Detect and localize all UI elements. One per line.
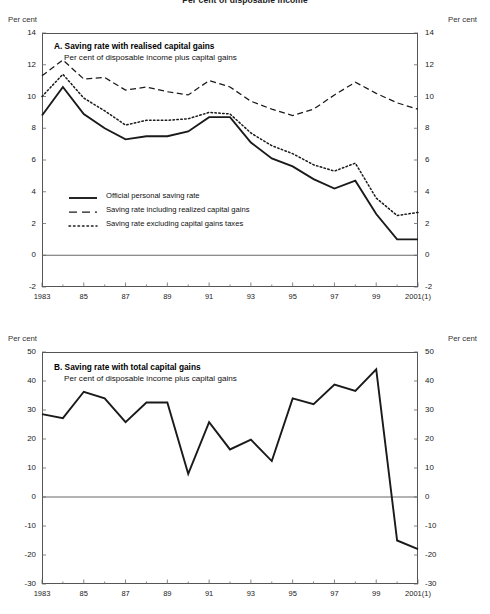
- y-tick-label-a-right: 10: [425, 92, 461, 101]
- y-tick-label-b-left: -30: [8, 579, 36, 588]
- y-tick-label-a-right: 2: [425, 219, 461, 228]
- y-tick-label-b-left: 10: [8, 463, 36, 472]
- y-tick-label-a-left: 2: [8, 219, 36, 228]
- legend-label: Saving rate excluding capital gains taxe…: [106, 219, 243, 228]
- y-tick-label-a-right: 0: [425, 250, 461, 259]
- y-tick-label-a-right: -2: [425, 282, 461, 291]
- per-cent-label-a-left: Per cent: [8, 15, 37, 24]
- legend-label: Official personal saving rate: [106, 191, 200, 200]
- y-tick-label-b-right: -10: [425, 521, 461, 530]
- y-tick-label-b-right: 30: [425, 405, 461, 414]
- y-tick-label-b-right: 20: [425, 434, 461, 443]
- y-tick-label-b-right: 10: [425, 463, 461, 472]
- y-tick-label-a-left: -2: [8, 282, 36, 291]
- y-tick-label-b-right: -20: [425, 550, 461, 559]
- panel-b-title: B. Saving rate with total capital gains: [54, 362, 201, 372]
- plot-frame-b: [42, 352, 418, 584]
- y-tick-label-b-right: 50: [425, 347, 461, 356]
- x-tick-label-a: 2001(1): [391, 292, 445, 301]
- y-tick-label-b-right: 40: [425, 376, 461, 385]
- panel-a-title: A. Saving rate with realised capital gai…: [54, 41, 214, 51]
- per-cent-label-b-right: Per cent: [448, 334, 477, 343]
- y-tick-label-a-left: 10: [8, 92, 36, 101]
- y-tick-label-b-right: -30: [425, 579, 461, 588]
- legend-swatch-dashed: [68, 206, 98, 218]
- y-tick-label-b-left: 0: [8, 492, 36, 501]
- figure-suptitle: Per cent of disposable income: [0, 0, 490, 5]
- y-tick-label-b-left: 20: [8, 434, 36, 443]
- y-tick-label-b-right: 0: [425, 492, 461, 501]
- y-tick-label-a-right: 6: [425, 155, 461, 164]
- y-tick-label-a-left: 4: [8, 187, 36, 196]
- legend-swatch-dotted: [68, 220, 98, 232]
- y-tick-label-b-left: 50: [8, 347, 36, 356]
- legend-label: Saving rate including realized capital g…: [106, 205, 250, 214]
- y-tick-label-b-left: 40: [8, 376, 36, 385]
- panel-a-subtitle: Per cent of disposable income plus capit…: [64, 53, 237, 62]
- y-tick-label-a-left: 14: [8, 28, 36, 37]
- plot-frame-a: [42, 33, 418, 287]
- y-tick-label-b-left: -10: [8, 521, 36, 530]
- y-tick-label-a-left: 8: [8, 123, 36, 132]
- per-cent-label-b-left: Per cent: [8, 334, 37, 343]
- y-tick-label-a-right: 14: [425, 28, 461, 37]
- legend-swatch-solid: [68, 192, 98, 204]
- y-tick-label-a-left: 6: [8, 155, 36, 164]
- panel-b-subtitle: Per cent of disposable income plus capit…: [64, 374, 237, 383]
- x-tick-label-b: 2001(1): [391, 589, 445, 598]
- y-tick-label-a-right: 8: [425, 123, 461, 132]
- y-tick-label-a-right: 12: [425, 60, 461, 69]
- y-tick-label-b-left: -20: [8, 550, 36, 559]
- y-tick-label-b-left: 30: [8, 405, 36, 414]
- y-tick-label-a-right: 4: [425, 187, 461, 196]
- y-tick-label-a-left: 12: [8, 60, 36, 69]
- per-cent-label-a-right: Per cent: [448, 15, 477, 24]
- figure-canvas: Per cent of disposable income Per cent P…: [0, 0, 490, 614]
- y-tick-label-a-left: 0: [8, 250, 36, 259]
